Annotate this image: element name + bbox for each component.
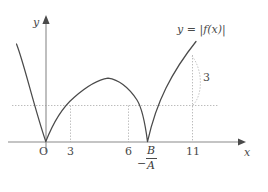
x-axis-label: x — [244, 147, 250, 158]
y-axis-arrowhead — [42, 15, 49, 24]
x-axis-arrowhead — [238, 138, 246, 145]
x-tick-3: 3 — [67, 146, 74, 157]
distance-arc — [192, 56, 200, 105]
fraction-denominator: A — [144, 160, 158, 172]
curve-equation-label: y = |f(x)| — [177, 24, 226, 35]
x-tick-6: 6 — [125, 146, 132, 157]
x-tick-11: 11 — [186, 146, 200, 157]
graph-canvas — [0, 0, 268, 192]
origin-label: O — [39, 146, 48, 157]
distance-annotation-label: 3 — [203, 72, 210, 83]
fraction-numerator: B — [144, 145, 158, 157]
fraction-b-over-a: B A — [144, 145, 158, 171]
abs-value-curve — [17, 42, 197, 142]
figure-absolute-value-graph: y x O 3 6 11 − B A y = |f(x)| 3 — [0, 0, 268, 192]
y-axis-label: y — [33, 17, 39, 28]
